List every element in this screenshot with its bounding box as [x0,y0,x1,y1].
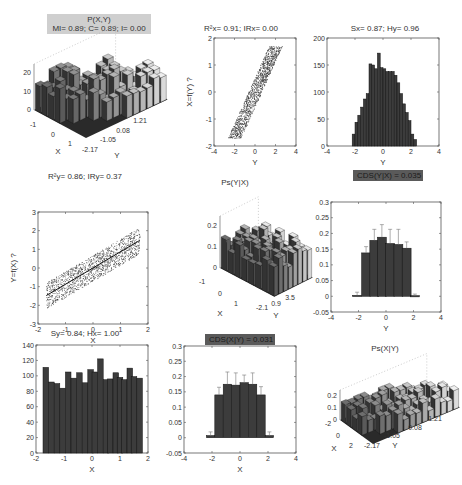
svg-text:0: 0 [213,264,217,271]
svg-text:40: 40 [26,419,34,426]
svg-text:Y: Y [392,441,398,450]
svg-text:200: 200 [313,35,325,42]
svg-text:0.9: 0.9 [271,300,281,307]
svg-text:-0.05: -0.05 [313,309,329,316]
svg-text:-1: -1 [199,278,205,285]
svg-text:-2: -2 [206,143,212,150]
svg-text:Y: Y [273,311,279,320]
svg-text:0: 0 [30,450,34,457]
svg-text:4: 4 [437,148,441,155]
svg-text:-2: -2 [352,148,358,155]
svg-text:-1.05: -1.05 [100,136,116,143]
panel-histogram-x: Sy= 0.84; Hx= 1.00 -2-101202040608010012… [0,320,160,485]
svg-text:0.05: 0.05 [168,419,182,426]
svg-text:0: 0 [32,265,36,272]
svg-text:1: 1 [68,140,72,147]
svg-text:0: 0 [218,290,222,297]
chart-scatter: -2-1012-3-2-10123XY=f(X) ? [0,160,160,320]
chart-bar-errorbars: -4-2024-0.0500.050.10.150.20.250.3Y [305,160,462,320]
svg-text:3.5: 3.5 [285,294,295,301]
svg-text:0: 0 [336,432,340,439]
svg-text:-2.17: -2.17 [364,442,380,449]
svg-text:120: 120 [22,357,34,364]
svg-text:140: 140 [22,342,34,349]
svg-text:2: 2 [409,148,413,155]
svg-text:-2: -2 [231,148,237,155]
svg-text:1: 1 [234,300,238,307]
svg-text:0.1: 0.1 [319,261,329,268]
svg-text:0.1: 0.1 [207,243,217,250]
svg-text:0: 0 [27,106,31,113]
svg-text:2: 2 [32,227,36,234]
svg-text:-0.05: -0.05 [166,450,182,457]
svg-text:0.1: 0.1 [172,404,182,411]
svg-text:1: 1 [32,246,36,253]
svg-text:2: 2 [208,35,212,42]
svg-text:0: 0 [90,455,94,462]
svg-text:0.2: 0.2 [327,392,337,399]
svg-text:-2.1: -2.1 [256,304,268,311]
svg-text:2: 2 [349,442,353,449]
chart-3d-bars: 00.10.2-202-2.17-1.050.081.21XY [300,320,462,485]
svg-text:100: 100 [22,372,34,379]
svg-text:1.21: 1.21 [133,117,147,124]
svg-text:-1: -1 [30,121,36,128]
svg-text:-2.17: -2.17 [82,146,98,153]
svg-text:X: X [237,465,243,474]
svg-text:4: 4 [294,455,298,462]
svg-text:1: 1 [208,62,212,69]
svg-text:60: 60 [26,403,34,410]
svg-text:0.2: 0.2 [207,222,217,229]
svg-text:50: 50 [317,116,325,123]
svg-text:4: 4 [294,148,298,155]
svg-text:0.25: 0.25 [315,214,329,221]
svg-text:-2: -2 [209,455,215,462]
svg-text:0: 0 [51,131,55,138]
svg-text:0.05: 0.05 [315,277,329,284]
svg-text:2: 2 [274,148,278,155]
svg-text:X=f(Y) ?: X=f(Y) ? [185,77,194,107]
svg-text:X: X [331,444,337,453]
svg-text:80: 80 [26,388,34,395]
svg-text:Y=f(X) ?: Y=f(X) ? [9,253,18,283]
svg-text:100: 100 [313,89,325,96]
svg-text:0.15: 0.15 [168,388,182,395]
svg-text:2: 2 [266,455,270,462]
chart-histogram: -2-1012020406080100120140X [0,320,160,485]
svg-text:0: 0 [333,416,337,423]
svg-text:20: 20 [23,69,31,76]
chart-scatter: -4-2024-2-1012YX=f(Y) ? [160,0,310,160]
svg-text:X: X [217,309,223,318]
panel-conditional-y-given-x-3d: Ps(Y|X) 00.10.2-101-2.10.93.5XY [160,160,310,320]
svg-text:0.3: 0.3 [319,199,329,206]
svg-text:1: 1 [118,455,122,462]
chart-bar-errorbars: -4-2024-0.0500.050.10.150.20.250.3X [155,320,310,485]
svg-text:Y: Y [114,151,120,160]
svg-text:3: 3 [32,209,36,216]
svg-text:0: 0 [253,148,257,155]
panel-scatter-y-of-x: R²y= 0.86; IRy= 0.37 -2-1012-3-2-10123XY… [0,160,160,320]
svg-text:1.21: 1.21 [428,415,442,422]
svg-text:-1.05: -1.05 [384,432,400,439]
svg-text:10: 10 [23,88,31,95]
svg-text:-2: -2 [325,420,331,427]
svg-text:0.1: 0.1 [327,404,337,411]
chart-3d-bars: 00.10.2-101-2.10.93.5XY [160,160,310,320]
svg-text:0.2: 0.2 [172,373,182,380]
panel-joint-probability-3d: P(X,Y) MI= 0.89; C= 0.89; I= 0.00 01020-… [0,0,160,160]
chart-histogram: -4-2024050100150200Y [305,0,462,160]
svg-text:0: 0 [321,143,325,150]
svg-text:0.3: 0.3 [172,343,182,350]
svg-text:20: 20 [26,434,34,441]
svg-text:0: 0 [381,148,385,155]
panel-histogram-y: Sx= 0.87; Hy= 0.96 -4-2024050100150200Y [305,0,462,160]
svg-text:-1: -1 [61,455,67,462]
panel-cds-x-given-y: CDS(X|Y) = 0.031 -4-2024-0.0500.050.10.1… [155,320,310,485]
svg-text:0: 0 [238,455,242,462]
chart-3d-bars: 01020-101-2.17-1.050.081.21XY [0,0,160,160]
svg-text:0.08: 0.08 [408,424,422,431]
svg-text:-2: -2 [30,302,36,309]
svg-text:0.08: 0.08 [116,127,130,134]
svg-text:-1: -1 [206,116,212,123]
svg-text:0.15: 0.15 [315,246,329,253]
